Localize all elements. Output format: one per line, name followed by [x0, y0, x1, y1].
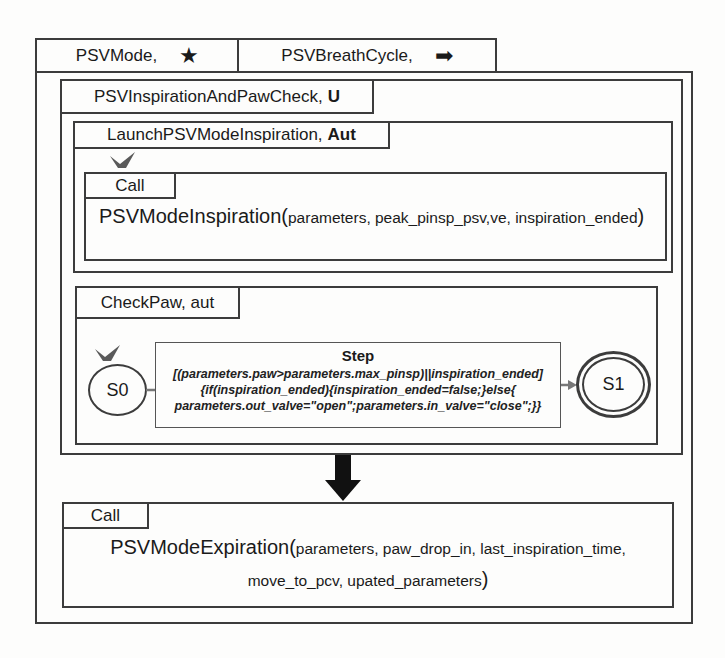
launch-inspiration-header: LaunchPSVModeInspiration, Aut — [73, 121, 390, 149]
function-close: ) — [638, 205, 645, 227]
state-label: S1 — [602, 374, 624, 395]
tab-label: PSVMode, — [76, 46, 157, 66]
tab-psvbreathcycle[interactable]: PSVBreathCycle, ➡ — [237, 38, 497, 73]
sequence-arrow-down-icon — [324, 455, 362, 502]
inspiration-paw-check-header: PSVInspirationAndPawCheck, U — [60, 79, 374, 114]
function-close: ) — [482, 568, 489, 590]
step-transition[interactable]: Step [(parameters.paw>parameters.max_pin… — [155, 342, 561, 428]
checkpaw-header: CheckPaw, aut — [75, 286, 240, 319]
function-name: PSVModeExpiration( — [110, 536, 296, 558]
signature-line-1: PSVModeExpiration(parameters, paw_drop_i… — [62, 532, 674, 564]
block-title: CheckPaw, aut — [101, 293, 214, 313]
initial-check-icon — [93, 343, 123, 365]
step-title: Step — [156, 343, 560, 366]
function-name: PSVModeInspiration( — [99, 205, 288, 227]
signature-line-2: move_to_pcv, upated_parameters) — [62, 564, 674, 596]
block-title: PSVInspirationAndPawCheck, — [94, 87, 323, 107]
function-params-line-2: move_to_pcv, upated_parameters — [248, 572, 482, 589]
call-label: Call — [91, 506, 120, 526]
tab-label: PSVBreathCycle, — [281, 46, 412, 66]
step-guard: [(parameters.paw>parameters.max_pinsp)||… — [156, 366, 560, 382]
call-label: Call — [115, 176, 144, 196]
final-state-inner-ring: S1 — [582, 357, 645, 412]
step-action-line-2: parameters.out_valve="open";parameters.i… — [156, 398, 560, 414]
arrow-right-icon: ➡ — [435, 45, 453, 67]
function-params: parameters, peak_pinsp_psv,ve, inspirati… — [288, 209, 638, 226]
expiration-call-signature: PSVModeExpiration(parameters, paw_drop_i… — [62, 532, 674, 596]
tab-psvmode[interactable]: PSVMode, ★ — [35, 38, 240, 73]
step-action-line-1: {if(inspiration_ended){inspiration_ended… — [156, 382, 560, 398]
state-s1-final[interactable]: S1 — [576, 351, 651, 418]
block-modifier: Aut — [328, 125, 356, 145]
call-header: Call — [62, 502, 149, 529]
star-icon: ★ — [179, 45, 199, 67]
state-s0[interactable]: S0 — [88, 364, 147, 416]
function-params-line-1: parameters, paw_drop_in, last_inspiratio… — [296, 540, 626, 557]
block-title: LaunchPSVModeInspiration, — [107, 125, 322, 145]
state-label: S0 — [106, 380, 128, 401]
call-header: Call — [84, 172, 176, 199]
block-modifier: U — [328, 87, 340, 107]
inspiration-call-signature: PSVModeInspiration(parameters, peak_pins… — [99, 205, 644, 228]
initial-check-icon — [108, 150, 138, 172]
